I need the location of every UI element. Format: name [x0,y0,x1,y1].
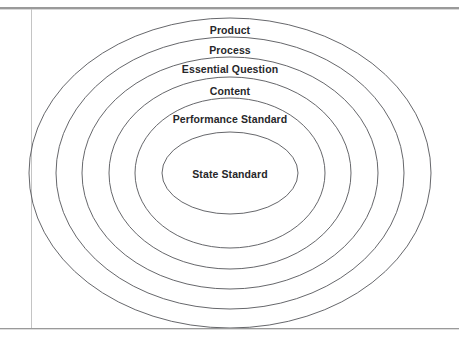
bottom-frame-rule-shadow [0,329,459,330]
page-root: ProductProcessEssential QuestionContentP… [0,0,459,342]
ring-label-state-standard: State Standard [192,169,268,180]
ring-label-performance-standard: Performance Standard [173,114,288,125]
ring-label-process: Process [209,45,251,56]
ring-label-content: Content [210,86,250,97]
ring-label-product: Product [210,25,250,36]
ring-label-essential-question: Essential Question [182,64,278,75]
